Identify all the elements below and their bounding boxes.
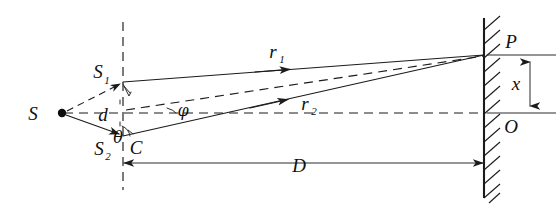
- label-slit-S2: S: [94, 138, 104, 159]
- angle-phi-arc: [167, 108, 176, 113]
- ray-source-to-slit1: [67, 84, 120, 111]
- label-angle-phi: φ: [177, 101, 189, 120]
- label-ray-r1-subscript: 1: [279, 53, 285, 65]
- label-source-S: S: [28, 103, 38, 124]
- young-double-slit-figure: S S 1 S 2 d C θ φ r 1 r 2 P O x D: [0, 0, 556, 211]
- label-ray-r2: r: [301, 93, 309, 114]
- optics-diagram-canvas: S S 1 S 2 d C θ φ r 1 r 2 P O x D: [0, 0, 556, 211]
- ray-r2-arrowhead: [250, 100, 288, 109]
- ray-r1-arrowhead: [255, 69, 290, 72]
- label-slit-S1-subscript: 1: [104, 74, 110, 86]
- label-slit-S2-subscript: 2: [105, 150, 111, 162]
- label-screen-point-P: P: [504, 31, 517, 52]
- label-fringe-position-x: x: [511, 73, 521, 94]
- label-distance-D: D: [291, 155, 306, 176]
- ray-source-to-slit2: [66, 115, 119, 134]
- label-screen-center-O: O: [504, 116, 518, 137]
- screen-hatching: [484, 16, 500, 203]
- label-slit-separation-d: d: [98, 104, 108, 125]
- label-midpoint-C: C: [130, 137, 143, 158]
- label-slit-S1: S: [93, 61, 103, 82]
- label-ray-r2-subscript: 2: [311, 105, 317, 117]
- label-angle-theta: θ: [113, 128, 123, 147]
- ray-r1-to-screen: [123, 55, 484, 82]
- source-point-dot: [58, 109, 66, 117]
- label-ray-r1: r: [269, 41, 277, 62]
